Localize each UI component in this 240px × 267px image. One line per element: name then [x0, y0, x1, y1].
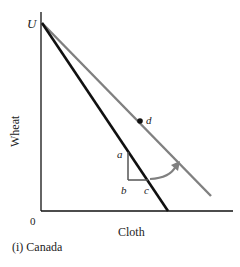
intercept-label: U: [27, 16, 38, 31]
point-d-label: d: [146, 114, 152, 126]
origin-label: 0: [30, 215, 36, 227]
point-c-label: c: [144, 184, 149, 196]
x-axis-label: Cloth: [118, 225, 145, 239]
rotation-arrow: [150, 166, 176, 179]
y-axis-label: Wheat: [8, 115, 22, 147]
trade-price-line: [42, 23, 211, 196]
point-d-marker: [137, 118, 143, 124]
trade-diagram: U 0 d a b c Wheat Cloth (i) Canada: [0, 0, 240, 267]
point-a-label: a: [117, 148, 123, 160]
panel-caption: (i) Canada: [12, 240, 63, 254]
point-b-label: b: [121, 184, 127, 196]
